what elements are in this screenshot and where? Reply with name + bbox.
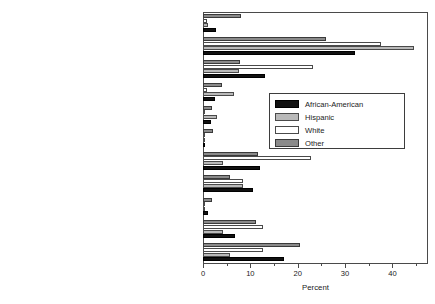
x-axis-minor-tick [274,264,275,266]
bar [203,65,313,69]
legend-item[interactable]: Hispanic [275,111,399,123]
x-axis-title: Percent [203,283,428,292]
bar [203,23,208,27]
bar [203,257,284,261]
x-axis-tick [345,264,346,268]
bar [203,129,213,133]
bar [203,179,243,183]
bar [203,220,256,224]
bar [203,156,311,160]
bar [203,88,207,92]
bar [203,37,326,41]
x-axis-minor-tick [369,264,370,266]
bar [203,152,258,156]
x-axis-tick-label: 30 [341,269,349,278]
legend-item[interactable]: African-American [275,98,399,110]
bar [203,83,222,87]
bar [203,188,253,192]
bar [203,19,207,23]
bar [203,166,260,170]
bar [203,28,216,32]
bar [203,46,414,50]
bar [203,74,265,78]
bar [203,51,355,55]
x-axis-tick-label: 20 [294,269,302,278]
x-axis-tick [203,264,204,268]
bar [203,69,239,73]
bar [203,198,212,202]
x-axis-tick [392,264,393,268]
bar [203,92,234,96]
x-axis-tick-label: 10 [246,269,254,278]
x-axis-minor-tick [321,264,322,266]
bar [203,115,217,119]
legend: African-AmericanHispanicWhiteOther [269,93,405,149]
bar [203,138,205,142]
legend-label: African-American [305,100,363,109]
legend-swatch [275,100,299,108]
legend-swatch [275,126,299,134]
bar [203,253,230,257]
legend-item[interactable]: White [275,124,399,136]
bar [203,110,205,114]
bar [203,234,235,238]
x-axis-tick-label: 0 [201,269,205,278]
bar [203,97,215,101]
bar-chart: Test ScoresTeacher qualityParental invol… [0,0,435,304]
legend-swatch [275,113,299,121]
bar [203,243,300,247]
legend-label: Hispanic [305,113,334,122]
bar [203,143,205,147]
legend-swatch [275,139,299,147]
bar [203,225,263,229]
bar [203,120,211,124]
bar [203,202,205,206]
bar [203,207,205,211]
x-axis-minor-tick [227,264,228,266]
bar [203,184,243,188]
legend-label: Other [305,139,324,148]
x-axis-tick [250,264,251,268]
legend-label: White [305,126,324,135]
bar [203,248,263,252]
bar [203,161,223,165]
x-axis-minor-tick [416,264,417,266]
legend-item[interactable]: Other [275,137,399,149]
x-axis-tick [298,264,299,268]
bar [203,211,208,215]
bar [203,106,212,110]
bar [203,175,230,179]
bar [203,60,240,64]
bar [203,14,241,18]
bar [203,42,381,46]
x-axis-tick-label: 40 [388,269,396,278]
bar [203,230,223,234]
bar [203,133,205,137]
